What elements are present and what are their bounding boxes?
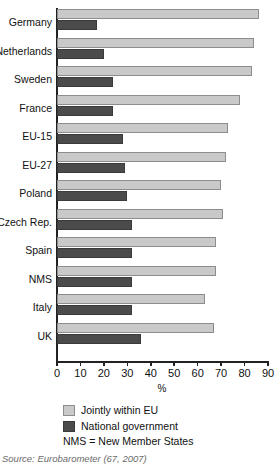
- chart-row: Spain: [57, 236, 268, 265]
- bar-national-government: [57, 77, 113, 87]
- category-label: France: [19, 103, 52, 114]
- bar-national-government: [57, 248, 132, 258]
- bar-national-government: [57, 277, 132, 287]
- category-label: EU-27: [22, 160, 52, 171]
- bar-jointly-within-eu: [57, 209, 223, 219]
- chart-row: Italy: [57, 293, 268, 322]
- source-caption: Source: Eurobarometer (67, 2007): [2, 453, 147, 464]
- legend-label: National government: [81, 421, 178, 432]
- bar-jointly-within-eu: [57, 180, 221, 190]
- x-axis-tick-label: 70: [215, 368, 227, 379]
- chart-row: Germany: [57, 8, 268, 37]
- x-axis-tick-label: 90: [262, 368, 274, 379]
- legend-item-jointly-within-eu: Jointly within EU: [63, 404, 193, 416]
- chart-row: NMS: [57, 265, 268, 294]
- legend-swatch-icon-dark: [63, 421, 75, 432]
- bar-jointly-within-eu: [57, 323, 214, 333]
- bar-national-government: [57, 49, 104, 59]
- x-axis-tick: [150, 361, 152, 366]
- bar-national-government: [57, 134, 123, 144]
- bar-jointly-within-eu: [57, 38, 254, 48]
- x-axis-tick: [56, 361, 58, 366]
- bar-national-government: [57, 20, 97, 30]
- bar-national-government: [57, 305, 132, 315]
- chart-row: Poland: [57, 179, 268, 208]
- x-axis-tick-label: 40: [145, 368, 157, 379]
- chart-row: EU-27: [57, 151, 268, 180]
- bar-national-government: [57, 163, 125, 173]
- x-axis-tick: [80, 361, 82, 366]
- legend-label: Jointly within EU: [81, 405, 158, 416]
- chart-row: Netherlands: [57, 37, 268, 66]
- x-axis-tick: [267, 361, 269, 366]
- x-axis-tick-label: 60: [192, 368, 204, 379]
- chart-row: EU-15: [57, 122, 268, 151]
- bar-national-government: [57, 334, 141, 344]
- legend-note-nms: NMS = New Member States: [63, 436, 193, 447]
- category-label: Sweden: [14, 74, 52, 85]
- chart-row: UK: [57, 322, 268, 351]
- x-axis-tick-label: 10: [74, 368, 86, 379]
- x-axis-tick: [127, 361, 129, 366]
- x-axis-tick-label: 30: [121, 368, 133, 379]
- legend-swatch-icon-light: [63, 405, 75, 416]
- bar-national-government: [57, 220, 132, 230]
- category-label: Italy: [33, 302, 52, 313]
- x-axis-tick-label: 0: [54, 368, 60, 379]
- bar-jointly-within-eu: [57, 266, 216, 276]
- x-axis-tick: [244, 361, 246, 366]
- x-axis-tick: [197, 361, 199, 366]
- chart-row: Czech Rep.: [57, 208, 268, 237]
- category-label: Czech Rep.: [0, 217, 52, 228]
- category-label: UK: [37, 331, 52, 342]
- bar-jointly-within-eu: [57, 66, 252, 76]
- bar-jointly-within-eu: [57, 9, 259, 19]
- x-axis-tick: [103, 361, 105, 366]
- bar-jointly-within-eu: [57, 237, 216, 247]
- bar-jointly-within-eu: [57, 123, 228, 133]
- plot-area: GermanyNetherlandsSwedenFranceEU-15EU-27…: [57, 8, 268, 360]
- bar-chart: GermanyNetherlandsSwedenFranceEU-15EU-27…: [0, 0, 276, 390]
- category-label: Netherlands: [0, 46, 52, 57]
- category-label: EU-15: [22, 131, 52, 142]
- chart-row: Sweden: [57, 65, 268, 94]
- bar-jointly-within-eu: [57, 152, 226, 162]
- bar-jointly-within-eu: [57, 95, 240, 105]
- x-axis-label: %: [158, 383, 167, 394]
- category-label: Germany: [9, 17, 52, 28]
- chart-row: France: [57, 94, 268, 123]
- category-label: Spain: [25, 245, 52, 256]
- bar-jointly-within-eu: [57, 294, 205, 304]
- x-axis-line: [56, 361, 269, 363]
- bar-national-government: [57, 106, 113, 116]
- chart-legend: Jointly within EU National government NM…: [63, 404, 193, 447]
- category-label: Poland: [19, 188, 52, 199]
- x-axis-tick-label: 20: [98, 368, 110, 379]
- bar-national-government: [57, 191, 127, 201]
- x-axis-tick-label: 80: [238, 368, 250, 379]
- x-axis-tick: [220, 361, 222, 366]
- category-label: NMS: [29, 274, 52, 285]
- x-axis-tick: [173, 361, 175, 366]
- x-axis-tick-label: 50: [168, 368, 180, 379]
- legend-item-national-government: National government: [63, 420, 193, 432]
